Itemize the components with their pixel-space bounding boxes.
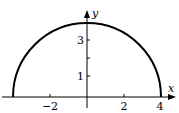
y-axis-arrow-icon — [84, 10, 90, 18]
x-tick-label-2: 2 — [121, 100, 128, 113]
x-tick-label-4: 4 — [157, 100, 164, 113]
y-axis-label: y — [91, 7, 99, 20]
y-tick-label-3: 3 — [77, 34, 84, 47]
y-tick-label-1: 1 — [77, 70, 84, 83]
semicircle-chart: −2 2 4 1 3 x y — [0, 0, 179, 113]
x-axis-label: x — [168, 82, 175, 95]
x-tick-label-neg2: −2 — [42, 100, 58, 113]
